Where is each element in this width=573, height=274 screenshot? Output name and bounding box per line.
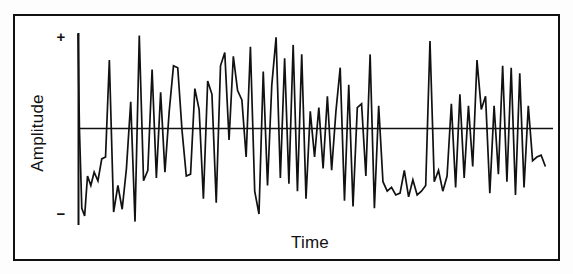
y-axis-negative-tick: − — [53, 206, 69, 221]
chart-frame — [13, 14, 560, 261]
figure-canvas: + − Amplitude Time — [0, 0, 573, 274]
x-axis-label: Time — [250, 234, 370, 251]
y-axis-positive-tick: + — [53, 29, 69, 44]
y-axis-label: Amplitude — [29, 53, 46, 213]
